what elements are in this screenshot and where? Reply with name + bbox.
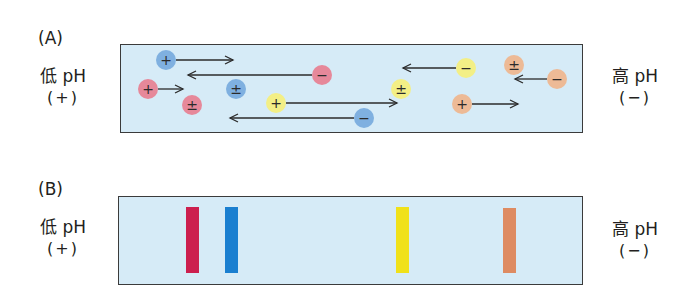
charge-sign: +: [160, 52, 172, 68]
charge-sign: −: [316, 67, 328, 83]
charge-sign: ±: [230, 81, 242, 97]
protein-band-red: [186, 207, 199, 273]
protein-particle-orange: +: [452, 94, 518, 114]
charge-sign: −: [551, 71, 563, 87]
charge-sign: ±: [508, 57, 520, 73]
protein-band-yellow: [396, 207, 409, 273]
charge-sign: ±: [186, 97, 198, 113]
charge-sign: −: [358, 110, 370, 126]
protein-particle-red: ±: [182, 95, 202, 115]
charge-sign: ±: [395, 81, 407, 97]
protein-particle-yellow: −: [403, 58, 476, 78]
protein-particle-blue: −: [230, 108, 374, 128]
isoelectric-focusing-diagram: +−+±±+−−±−±+: [0, 0, 691, 303]
protein-particle-yellow: ±: [391, 79, 411, 99]
protein-particle-red: +: [138, 79, 183, 99]
protein-particle-yellow: +: [266, 93, 397, 113]
charge-sign: +: [456, 96, 468, 112]
protein-particle-blue: +: [156, 50, 233, 70]
charge-sign: −: [460, 60, 472, 76]
protein-particle-blue: ±: [226, 79, 246, 99]
protein-band-blue: [225, 207, 238, 273]
charge-sign: +: [142, 81, 154, 97]
protein-band-orange: [503, 208, 516, 273]
protein-particle-orange: −: [515, 69, 567, 89]
charge-sign: +: [270, 95, 282, 111]
protein-particle-red: −: [188, 65, 332, 85]
protein-particle-orange: ±: [504, 55, 524, 75]
